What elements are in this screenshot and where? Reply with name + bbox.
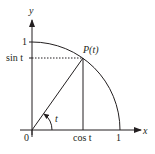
y-one-label: 1 <box>22 36 27 47</box>
x-axis-label: x <box>142 125 148 136</box>
unit-circle-diagram: y x 1 sin t P(t) t 0 cos t 1 <box>0 0 155 154</box>
point-label: P(t) <box>82 44 99 56</box>
y-axis-label: y <box>28 5 34 16</box>
origin-label: 0 <box>24 132 29 143</box>
cos-t-label: cos t <box>73 132 92 143</box>
angle-label: t <box>55 113 58 124</box>
x-one-label: 1 <box>116 132 121 143</box>
unit-circle-arc <box>32 42 120 130</box>
sin-t-label: sin t <box>6 52 23 63</box>
angle-arc <box>44 114 52 130</box>
